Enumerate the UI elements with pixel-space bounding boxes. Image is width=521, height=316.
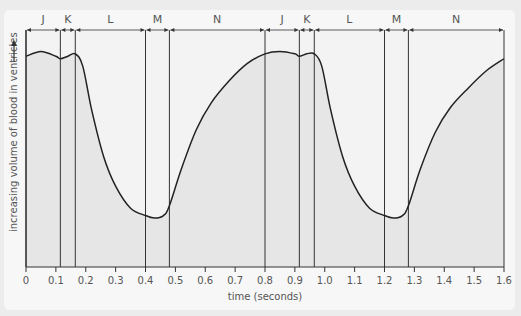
x-tick-label: 0.7 — [227, 275, 243, 286]
x-tick-label: 0.3 — [108, 275, 124, 286]
x-tick-label: 0.5 — [167, 275, 183, 286]
phase-label-K: K — [303, 13, 311, 26]
x-tick-label: 0.8 — [257, 275, 273, 286]
x-tick-label: 1.0 — [317, 275, 333, 286]
x-tick-label: 0.1 — [48, 275, 64, 286]
phase-label-N: N — [213, 13, 221, 26]
x-tick-label: 0.6 — [197, 275, 213, 286]
x-tick-label: 1.4 — [436, 275, 452, 286]
x-tick-label: 1.2 — [377, 275, 393, 286]
x-tick-label: 0 — [23, 275, 29, 286]
y-axis-title: increasing volume of blood in ventricles — [8, 32, 19, 232]
phase-labels: JKLMNJKLMN — [41, 13, 461, 26]
phase-label-L: L — [346, 13, 353, 26]
phase-label-K: K — [64, 13, 72, 26]
phase-label-L: L — [107, 13, 114, 26]
x-tick-label: 0.9 — [287, 275, 303, 286]
x-axis-title: time (seconds) — [228, 291, 303, 302]
phase-label-J: J — [280, 13, 284, 26]
ventricular-volume-chart: JKLMNJKLMN 00.10.20.30.40.50.60.70.80.91… — [0, 0, 521, 316]
x-tick-label: 1.5 — [466, 275, 482, 286]
phase-label-J: J — [41, 13, 45, 26]
phase-label-M: M — [153, 13, 163, 26]
x-tick-label: 1.3 — [406, 275, 422, 286]
x-tick-label: 0.4 — [138, 275, 154, 286]
x-tick-label: 0.2 — [78, 275, 94, 286]
phase-label-M: M — [392, 13, 402, 26]
x-tick-label: 1.6 — [496, 275, 512, 286]
x-axis-ticks: 00.10.20.30.40.50.60.70.80.91.01.11.21.3… — [23, 267, 512, 286]
phase-label-N: N — [452, 13, 460, 26]
x-tick-label: 1.1 — [347, 275, 363, 286]
